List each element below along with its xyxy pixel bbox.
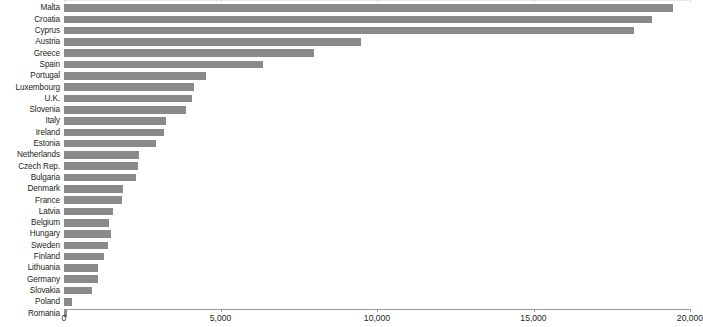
bar-row: Cyprus (0, 25, 697, 36)
bar-row: Lithuania (0, 262, 697, 273)
x-axis-tick-label: 10,000 (364, 313, 390, 324)
bar-row: Czech Rep. (0, 161, 697, 172)
bar-row: Slovenia (0, 104, 697, 115)
plot-top-tick-mark (64, 0, 65, 2)
x-axis-tick-label: 0 (62, 313, 67, 324)
bar (64, 72, 206, 80)
bar (64, 83, 194, 91)
category-label: Latvia (0, 206, 60, 217)
plot-top-tick-mark (377, 0, 378, 2)
x-axis-tick-label: 15,000 (520, 313, 546, 324)
bar (64, 298, 72, 306)
bar (64, 129, 164, 137)
bar (64, 16, 652, 24)
bar-row: Netherlands (0, 149, 697, 160)
bar (64, 117, 166, 125)
category-label: Sweden (0, 240, 60, 251)
category-label: Poland (0, 296, 60, 307)
bar-row: Ireland (0, 127, 697, 138)
category-label: Austria (0, 36, 60, 47)
bar (64, 49, 314, 57)
bar (64, 253, 104, 261)
bar (64, 196, 122, 204)
bar-row: France (0, 195, 697, 206)
bar-row: Greece (0, 48, 697, 59)
bar-row: Latvia (0, 206, 697, 217)
category-label: Italy (0, 115, 60, 126)
bar-row: Hungary (0, 228, 697, 239)
bar (64, 27, 634, 35)
bar (64, 287, 92, 295)
bar-row: Finland (0, 251, 697, 262)
category-label: Belgium (0, 217, 60, 228)
bar-row: Germany (0, 274, 697, 285)
bar-row: Sweden (0, 240, 697, 251)
bar-row: Portugal (0, 70, 697, 81)
bar (64, 162, 138, 170)
bar (64, 185, 123, 193)
plot-top-tick-mark (534, 0, 535, 2)
category-label: Greece (0, 48, 60, 59)
category-label: Spain (0, 59, 60, 70)
category-label: Bulgaria (0, 172, 60, 183)
category-label: Netherlands (0, 149, 60, 160)
bar-row: Belgium (0, 217, 697, 228)
bar (64, 95, 192, 103)
bar (64, 230, 111, 238)
x-axis-tick-label: 5,000 (210, 313, 232, 324)
plot-top-tick-mark (690, 0, 691, 2)
category-label: Germany (0, 274, 60, 285)
bar-row: Italy (0, 115, 697, 126)
bar-row: Malta (0, 2, 697, 13)
category-label: Romania (0, 308, 60, 319)
bar (64, 151, 139, 159)
category-label: Czech Rep. (0, 161, 60, 172)
category-label: Denmark (0, 183, 60, 194)
category-label: Lithuania (0, 262, 60, 273)
bar (64, 242, 108, 250)
category-label: Slovakia (0, 285, 60, 296)
category-label: Malta (0, 2, 60, 13)
bar (64, 38, 361, 46)
bar-row: Slovakia (0, 285, 697, 296)
bar-row: Estonia (0, 138, 697, 149)
category-label: Cyprus (0, 25, 60, 36)
bar-row: Poland (0, 296, 697, 307)
bar (64, 219, 109, 227)
bar-row: U.K. (0, 93, 697, 104)
category-label: Estonia (0, 138, 60, 149)
category-label: Portugal (0, 70, 60, 81)
category-label: Croatia (0, 14, 60, 25)
category-label: U.K. (0, 93, 60, 104)
bar (64, 61, 263, 69)
bar (64, 4, 673, 12)
bar (64, 106, 186, 114)
bar-row: Bulgaria (0, 172, 697, 183)
category-label: Luxembourg (0, 82, 60, 93)
category-label: Slovenia (0, 104, 60, 115)
category-label: Ireland (0, 127, 60, 138)
category-label: Finland (0, 251, 60, 262)
x-axis-tick-label: 20,000 (677, 313, 703, 324)
bar (64, 174, 136, 182)
category-label: France (0, 195, 60, 206)
bar (64, 208, 113, 216)
bar-row: Austria (0, 36, 697, 47)
bar-row: Denmark (0, 183, 697, 194)
bar-row: Spain (0, 59, 697, 70)
bar (64, 275, 98, 283)
bar-row: Luxembourg (0, 82, 697, 93)
bar (64, 264, 98, 272)
bar-row: Croatia (0, 14, 697, 25)
bar (64, 140, 156, 148)
category-label: Hungary (0, 228, 60, 239)
plot-top-tick-mark (221, 0, 222, 2)
